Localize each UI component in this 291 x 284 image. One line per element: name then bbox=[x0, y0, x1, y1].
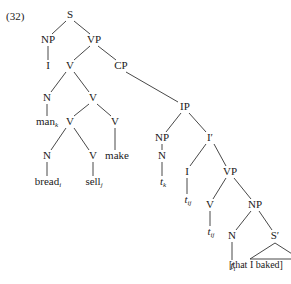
node-VP-top: VP bbox=[87, 33, 101, 45]
triangle-abbreviation-icon bbox=[250, 243, 291, 259]
leaf-sell: sellj bbox=[85, 175, 102, 189]
node-N-man: N bbox=[43, 91, 51, 103]
node-I-bar: I′ bbox=[207, 131, 213, 143]
node-I-infl: I bbox=[185, 165, 189, 177]
syntax-tree-diagram: (32) S NP VP I V CP N bbox=[0, 0, 291, 284]
node-N-bread: N bbox=[43, 149, 51, 161]
node-S: S bbox=[67, 8, 73, 20]
leaf-I-subject: I bbox=[46, 59, 50, 71]
leaf-trace-ij-infl: tij bbox=[185, 193, 192, 207]
node-V-mid: V bbox=[89, 91, 97, 103]
node-N-object: N bbox=[228, 229, 236, 241]
leaf-make: make bbox=[105, 149, 129, 161]
node-IP: IP bbox=[180, 100, 190, 112]
example-number: (32) bbox=[6, 10, 25, 23]
leaf-man: mank bbox=[36, 115, 59, 129]
node-VP-low: VP bbox=[223, 165, 237, 177]
node-V-top: V bbox=[66, 59, 74, 71]
leaf-trace-ij-verb: tij bbox=[208, 225, 215, 239]
node-V-make: V bbox=[111, 115, 119, 127]
leaf-trace-k: tk bbox=[160, 175, 167, 189]
node-NP-ip: NP bbox=[155, 131, 169, 143]
node-S-bar: S′ bbox=[271, 229, 280, 241]
node-N-tk: N bbox=[158, 149, 166, 161]
node-NP-subject: NP bbox=[41, 33, 55, 45]
node-V-low: V bbox=[206, 198, 214, 210]
node-NP-object: NP bbox=[248, 198, 262, 210]
node-CP: CP bbox=[114, 59, 127, 71]
node-V-left: V bbox=[66, 115, 74, 127]
node-V-sell: V bbox=[89, 149, 97, 161]
leaf-bread: breadi bbox=[35, 175, 61, 189]
leaf-relative-clause: [that I baked] bbox=[229, 259, 283, 270]
